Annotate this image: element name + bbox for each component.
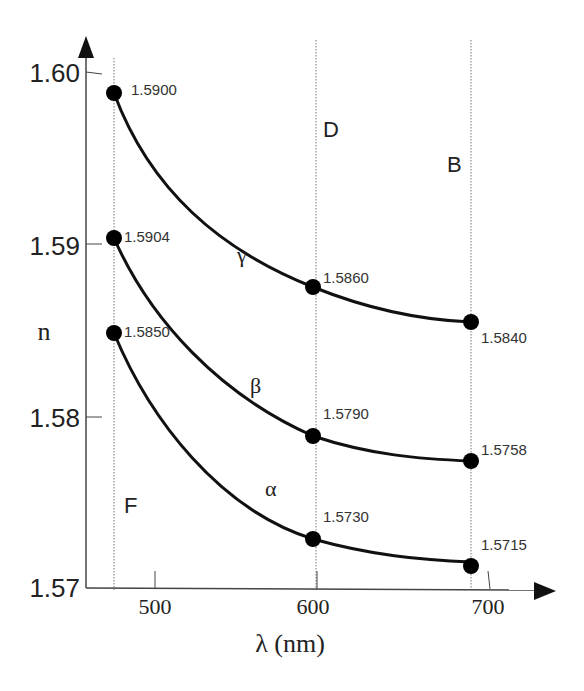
x-axis-title: λ (nm) xyxy=(255,629,325,658)
ref-label-B: B xyxy=(447,152,462,177)
y-axis-arrow-icon xyxy=(78,36,94,58)
series-label-alpha: α xyxy=(265,476,277,501)
data-point xyxy=(106,325,122,341)
point-label: 1.5840 xyxy=(481,329,527,346)
x-tick-label: 600 xyxy=(297,594,330,619)
ref-label-F: F xyxy=(124,493,137,518)
x-tick xyxy=(488,571,490,589)
data-point xyxy=(305,279,321,295)
data-point xyxy=(463,453,479,469)
y-tick-label: 1.57 xyxy=(29,573,80,603)
point-label: 1.5715 xyxy=(481,536,527,553)
x-axis xyxy=(86,588,535,590)
series-label-beta: β xyxy=(250,373,261,398)
point-label: 1.5730 xyxy=(323,508,369,525)
point-label: 1.5900 xyxy=(131,81,177,98)
data-point xyxy=(106,85,122,101)
point-label: 1.5758 xyxy=(481,441,527,458)
y-tick-label: 1.58 xyxy=(29,403,80,433)
data-point xyxy=(305,428,321,444)
data-point xyxy=(106,230,122,246)
x-tick-label: 700 xyxy=(472,594,505,619)
refractive-index-dispersion-chart: 1.60 1.59 1.58 1.57 500 600 700 λ (nm) n… xyxy=(0,0,584,691)
y-axis-title: n xyxy=(38,317,51,346)
point-label: 1.5904 xyxy=(124,228,170,245)
curve-alpha xyxy=(114,333,471,562)
data-point xyxy=(305,531,321,547)
point-label: 1.5850 xyxy=(124,323,170,340)
series-label-gamma: γ xyxy=(236,242,247,267)
x-axis-arrow-icon xyxy=(534,582,556,600)
point-label: 1.5790 xyxy=(323,405,369,422)
data-point xyxy=(463,314,479,330)
x-tick-label: 500 xyxy=(139,594,172,619)
curve-gamma xyxy=(114,93,471,322)
y-tick xyxy=(86,72,102,74)
y-tick-label: 1.60 xyxy=(29,58,80,88)
y-tick-label: 1.59 xyxy=(29,231,80,261)
point-label: 1.5860 xyxy=(323,269,369,286)
data-point xyxy=(463,558,479,574)
ref-label-D: D xyxy=(323,117,339,142)
